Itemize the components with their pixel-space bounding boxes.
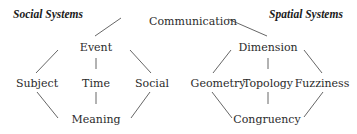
edge-social-meaning [131,92,150,118]
header-social-systems: Social Systems [13,9,83,21]
node-social: Social [135,78,169,89]
edge-dimension-geometry [213,50,231,73]
header-spatial-systems: Spatial Systems [269,9,343,21]
edge-geometry-congruency [212,92,232,118]
edge-event-social [130,50,151,73]
concept-diagram: Social Systems Spatial Systems Communica… [0,0,357,134]
node-topology: Topology [243,78,293,89]
node-event: Event [80,42,112,53]
edge-communication-event [95,18,121,36]
edge-fuzziness-congruency [304,92,323,117]
node-geometry: Geometry [191,78,246,89]
edge-event-subject [36,50,58,73]
node-time: Time [82,78,110,89]
node-dimension: Dimension [238,42,297,53]
node-communication: Communication [149,16,237,27]
node-meaning: Meaning [71,114,120,125]
edge-dimension-fuzziness [304,50,322,73]
node-congruency: Congruency [233,114,300,125]
node-subject: Subject [16,78,58,89]
node-fuzziness: Fuzziness [295,78,350,89]
edge-subject-meaning [37,92,58,118]
